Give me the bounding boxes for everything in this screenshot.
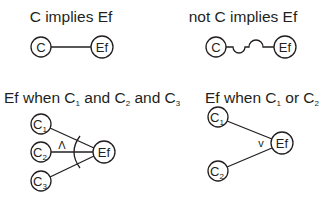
svg-text:C: C xyxy=(211,40,220,55)
cause-effect-diagram: C implies Ef C Ef not C implies Ef C Ef … xyxy=(0,0,324,198)
panel-c-implies-ef: C implies Ef C Ef xyxy=(30,8,113,58)
node-c: C xyxy=(31,37,51,57)
node-c: C xyxy=(206,37,226,57)
panel-and: Ef when C1 and C2 and C3 Λ C1 C2 C3 xyxy=(4,89,181,191)
or-operator: v xyxy=(258,137,264,149)
svg-text:C: C xyxy=(36,40,45,55)
and-operator: Λ xyxy=(58,139,66,151)
node-c2: C2 xyxy=(31,142,51,162)
node-ef: Ef xyxy=(274,36,296,58)
node-c3: C3 xyxy=(31,171,51,191)
panel-title: Ef when C1 or C2 xyxy=(205,89,320,108)
svg-text:Ef: Ef xyxy=(279,40,292,55)
node-ef: Ef xyxy=(91,36,113,58)
panel-title: Ef when C1 and C2 and C3 xyxy=(4,89,181,108)
edge-c3-ef xyxy=(50,156,94,177)
panel-title: C implies Ef xyxy=(30,8,113,25)
panel-not-c-implies-ef: not C implies Ef C Ef xyxy=(189,8,298,58)
edge-c2-ef xyxy=(227,148,272,167)
panel-or: Ef when C1 or C2 v C1 C2 Ef xyxy=(205,89,320,181)
node-c1: C1 xyxy=(31,114,51,134)
panel-title: not C implies Ef xyxy=(189,8,298,25)
node-c1: C1 xyxy=(208,107,228,127)
node-ef: Ef xyxy=(271,132,293,154)
edge-c1-ef xyxy=(50,128,94,148)
svg-text:Ef: Ef xyxy=(98,145,111,160)
node-c2: C2 xyxy=(208,161,228,181)
edge-c1-ef xyxy=(227,121,272,139)
svg-text:Ef: Ef xyxy=(276,136,289,151)
node-ef: Ef xyxy=(93,141,115,163)
negation-wave-edge xyxy=(226,40,274,53)
svg-text:Ef: Ef xyxy=(96,40,109,55)
